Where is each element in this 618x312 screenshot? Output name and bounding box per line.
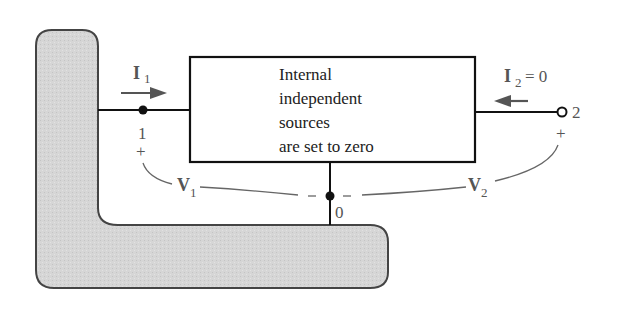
i2-label: I [504, 66, 511, 86]
node2-terminal [558, 108, 567, 117]
box-text-line-2: independent [279, 89, 362, 108]
i2-arrow-icon [494, 95, 528, 107]
v2-curve-right [495, 145, 558, 181]
v2-curve-left [362, 187, 466, 195]
diagram-canvas: Internal independent sources are set to … [0, 0, 618, 312]
v1-subscript: 1 [190, 185, 197, 200]
i1-label: I [133, 63, 140, 83]
i2-subscript: 2 [515, 75, 522, 90]
box-text-line-4: are set to zero [279, 137, 374, 156]
node0-label: 0 [335, 203, 344, 222]
node0-dot [326, 192, 335, 201]
node1-label: 1 [138, 124, 147, 143]
box-text-line-3: sources [279, 113, 330, 132]
i2-value: = 0 [525, 67, 547, 86]
box-text-line-1: Internal [279, 65, 332, 84]
port1-plus: + [136, 142, 146, 161]
v1-curve-right [200, 187, 298, 195]
port2-plus: + [556, 124, 566, 143]
node2-label: 2 [572, 103, 581, 122]
i1-arrow-icon [121, 87, 167, 99]
i1-subscript: 1 [144, 71, 151, 86]
v2-label: V [468, 175, 481, 195]
circuit-diagram: Internal independent sources are set to … [0, 0, 618, 312]
node1-dot [139, 106, 148, 115]
v1-label: V [177, 175, 190, 195]
v2-subscript: 2 [481, 185, 488, 200]
v1-curve [143, 163, 172, 184]
